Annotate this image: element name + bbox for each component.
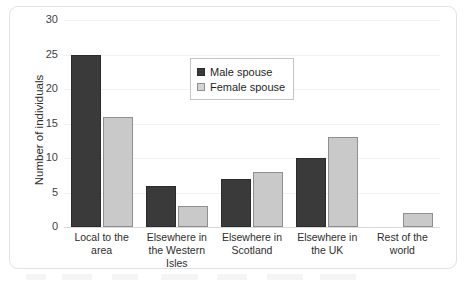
x-axis-category-label: Local to thearea: [64, 231, 139, 257]
x-axis-category-label: Elsewhere inthe UK: [290, 231, 365, 257]
plot-area: [64, 20, 440, 227]
chart-legend: Male spouseFemale spouse: [190, 58, 294, 100]
bar-male: [146, 186, 176, 227]
legend-label: Male spouse: [210, 66, 272, 78]
gridline: [64, 20, 440, 21]
y-axis-tick-label: 0: [12, 221, 58, 232]
gridline: [64, 55, 440, 56]
cropped-caption-sliver: [26, 274, 356, 280]
y-axis-tick-label: 5: [12, 187, 58, 198]
y-axis-tick-label: 25: [12, 49, 58, 60]
x-axis-line: [64, 227, 440, 228]
legend-item: Male spouse: [197, 64, 285, 79]
legend-swatch-female-icon: [197, 83, 205, 91]
legend-item: Female spouse: [197, 79, 285, 94]
legend-label: Female spouse: [210, 81, 285, 93]
bar-male: [71, 55, 101, 228]
bar-male: [221, 179, 251, 227]
x-axis-category-label: Rest of theworld: [365, 231, 440, 257]
y-axis-tick-labels: 051015202530: [8, 20, 58, 227]
bar-chart-figure: Number of individuals 051015202530 Local…: [0, 0, 469, 284]
bar-female: [328, 137, 358, 227]
x-axis-category-label: Elsewhere inthe WesternIsles: [139, 231, 214, 270]
y-axis-tick-label: 15: [12, 118, 58, 129]
bar-female: [178, 206, 208, 227]
bar-female: [403, 213, 433, 227]
x-axis-category-label: Elsewhere inScotland: [214, 231, 289, 257]
bar-female: [103, 117, 133, 227]
legend-swatch-male-icon: [197, 68, 205, 76]
bar-female: [253, 172, 283, 227]
y-axis-tick-label: 10: [12, 152, 58, 163]
y-axis-tick-label: 20: [12, 83, 58, 94]
bar-male: [296, 158, 326, 227]
y-axis-tick-label: 30: [12, 14, 58, 25]
